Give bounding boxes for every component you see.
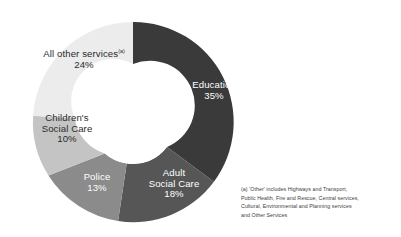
- slice-label-adult-social-care: Adult Social Care 18%: [122, 168, 226, 200]
- footnote-text: (a) 'Other' includes Highways and Transp…: [241, 185, 397, 219]
- donut-chart-figure: Education 35% Adult Social Care 18% Poli…: [0, 0, 401, 237]
- slice-label-adult-social-care-value: 18%: [122, 189, 226, 200]
- footnote-line-1: (a) 'Other' includes Highways and Transp…: [241, 185, 397, 194]
- slice-label-childrens-social-care-value: 10%: [24, 134, 110, 145]
- slice-label-all-other-services: All other services(a) 24%: [20, 48, 148, 71]
- footnote-line-2: Public Health, Fire and Rescue, Central …: [241, 194, 397, 203]
- slice-label-childrens-social-care: Children's Social Care 10%: [24, 113, 110, 145]
- footnote-line-4: and Other Services: [241, 211, 397, 220]
- slice-label-police: Police 13%: [62, 172, 132, 193]
- slice-label-all-other-services-name: All other services: [43, 48, 118, 59]
- slice-label-education-value: 35%: [168, 91, 260, 102]
- footnote-line-3: Cultural, Environmental and Planning ser…: [241, 202, 397, 211]
- slice-label-all-other-services-value: 24%: [20, 60, 148, 71]
- slice-label-police-value: 13%: [62, 183, 132, 194]
- slice-label-education: Education 35%: [168, 80, 260, 101]
- footnote-marker-a: (a): [118, 48, 125, 54]
